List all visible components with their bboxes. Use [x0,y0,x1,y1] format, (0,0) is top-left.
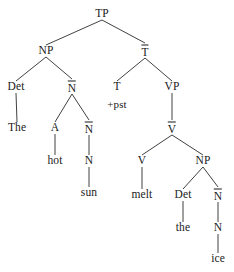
tree-node-det1: Det [8,81,25,93]
tree-node-v: V [138,155,146,167]
tree-node-a: A [51,122,59,134]
tree-node-tbar: T [141,45,148,58]
tree-edge-np1-det1 [16,57,46,81]
tree-edge-tp-tbar [102,20,145,43]
tree-node-vp: VP [165,81,180,93]
tree-node-the: the [176,222,190,234]
tree-edge-det1-the [16,93,17,122]
tree-edge-tbar-t [117,58,145,81]
tree-node-hot: hot [48,155,63,167]
tree-node-np2: NP [196,155,211,167]
tree-edge-np1-nbar1 [46,57,72,79]
tree-edges-layer [0,0,234,272]
tree-node-pst: +pst [107,99,126,110]
tree-node-tp: TP [95,8,109,20]
tree-node-the: The [8,122,26,134]
tree-node-nbar2: N [85,122,93,135]
tree-node-n2: N [214,222,222,234]
tree-edge-vbar-np2 [172,135,203,155]
tree-node-np1: NP [39,45,54,57]
tree-node-sun: sun [81,187,97,199]
tree-node-t: T [113,81,120,93]
tree-node-nbar3: N [214,189,222,202]
tree-edge-np2-det2 [183,167,203,189]
tree-edge-nbar1-a [55,94,72,122]
tree-node-n1: N [85,155,93,167]
tree-edge-vbar-v [142,135,172,155]
tree-node-vbar: V [168,122,176,135]
syntax-tree-figure: TPNPTDetNTVPTheAN+pstVhotNVNPsunmeltDetN… [0,0,234,272]
tree-edge-np2-nbar3 [203,167,218,187]
tree-node-det2: Det [175,189,192,201]
tree-node-melt: melt [132,189,153,201]
tree-node-ice: ice [211,253,225,265]
tree-edge-nbar1-nbar2 [72,94,89,120]
tree-edge-tbar-vp [145,58,172,81]
tree-edge-tp-np1 [46,20,102,45]
tree-node-nbar1: N [68,81,76,94]
